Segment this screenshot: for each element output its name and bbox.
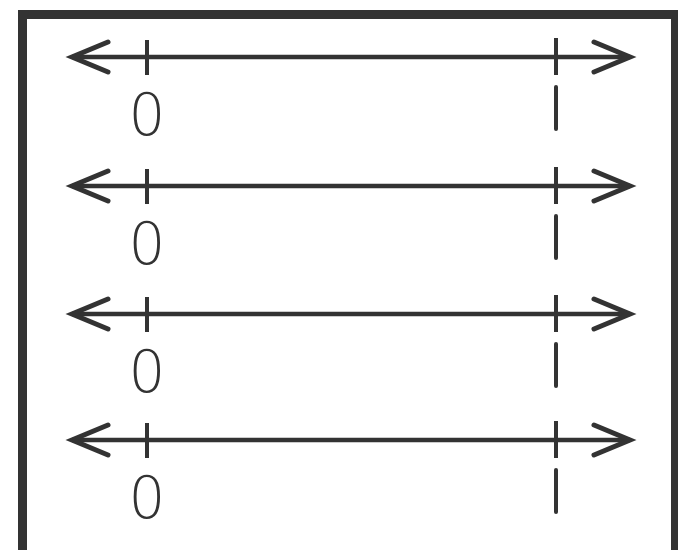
label-zero: 0 (129, 210, 166, 278)
label-zero: 0 (129, 464, 166, 532)
number-line: 0 (72, 421, 630, 532)
label-zero: 0 (129, 338, 166, 406)
number-line: 0 (72, 295, 630, 406)
number-line: 0 (72, 167, 630, 278)
label-zero: 0 (129, 81, 166, 149)
number-line: 0 (72, 38, 630, 149)
